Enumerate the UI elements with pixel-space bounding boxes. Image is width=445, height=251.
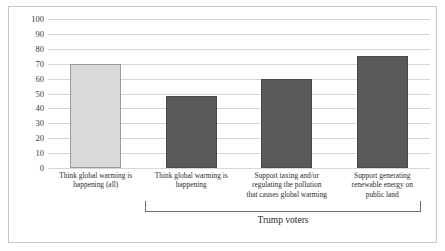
category-label-line: public land — [335, 190, 431, 199]
category-label-3: Support taxing and/orregulating the poll… — [239, 171, 335, 199]
category-label-line: Support taxing and/or — [239, 171, 335, 180]
chart-figure: 1009080706050403020100 Think global warm… — [8, 6, 437, 243]
y-axis-tick-label: 100 — [31, 15, 44, 24]
bar-3 — [261, 79, 312, 168]
y-axis-tick-label: 90 — [36, 30, 45, 39]
plot-area: 1009080706050403020100 — [48, 19, 430, 168]
y-axis-tick-label: 70 — [36, 59, 45, 68]
y-axis-tick-label: 30 — [36, 119, 45, 128]
y-axis-tick-label: 10 — [36, 149, 45, 158]
category-label-line: Think global warming is — [48, 171, 144, 180]
category-label-line: regulating the pollution — [239, 180, 335, 189]
y-axis-tick-label: 60 — [36, 74, 45, 83]
gridline — [48, 19, 430, 20]
gridline — [48, 168, 430, 169]
category-label-1: Think global warming ishappening (all) — [48, 171, 144, 190]
category-label-line: happening (all) — [48, 180, 144, 189]
category-label-2: Think global warming ishappening — [144, 171, 240, 190]
category-label-line: Support generating — [335, 171, 431, 180]
y-axis-tick-label: 20 — [36, 134, 45, 143]
trump-voters-bracket — [145, 201, 421, 212]
category-label-line: renewable energy on — [335, 180, 431, 189]
gridline — [48, 49, 430, 50]
bar-2 — [166, 96, 217, 168]
category-label-4: Support generatingrenewable energy onpub… — [335, 171, 431, 199]
y-axis-tick-label: 50 — [36, 89, 45, 98]
bracket-label: Trump voters — [145, 215, 421, 225]
bar-4 — [357, 56, 408, 168]
category-label-line: Think global warming is — [144, 171, 240, 180]
gridline — [48, 34, 430, 35]
category-label-line: happening — [144, 180, 240, 189]
category-label-line: that causes global warming — [239, 190, 335, 199]
bar-1 — [70, 64, 121, 168]
y-axis-tick-label: 80 — [36, 45, 45, 54]
y-axis-tick-label: 40 — [36, 104, 45, 113]
y-axis-tick-label: 0 — [40, 164, 44, 173]
